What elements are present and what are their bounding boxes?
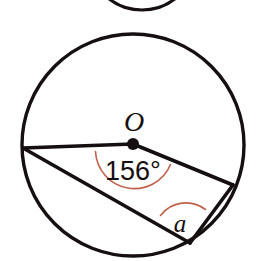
- circle-diagram-canvas: O 156° a: [0, 0, 260, 261]
- center-label: O: [124, 106, 144, 137]
- radius-segment-left: [23, 144, 133, 148]
- geometry-figure: O 156° a: [0, 0, 260, 261]
- inscribed-angle-label: a: [174, 210, 187, 237]
- central-angle-label: 156°: [105, 156, 161, 186]
- partial-circle-top: [88, 0, 196, 10]
- center-point-dot: [127, 138, 139, 150]
- chord-right-to-bottom: [190, 185, 233, 243]
